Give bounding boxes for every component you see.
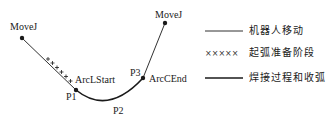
p1-label: P1 [66,92,77,102]
legend-crosses-symbol: ××××× [205,50,239,58]
arcc-end-label: ArcCEnd [149,74,187,84]
legend-arc-prep-label: 起弧准备阶段 [249,48,315,58]
p3-label: P3 [130,68,141,78]
arc-prep-crosses [46,57,73,83]
robot-move-segment-start [22,38,76,90]
robot-move-segment-end [143,23,165,78]
legend-weld-process-label: 焊接过程和收弧 [249,73,326,83]
movej-start-label: MoveJ [10,22,37,32]
legend-robot-move-label: 机器人移动 [249,26,304,36]
p2-label: P2 [113,106,124,116]
movej-start-point [20,36,24,40]
movej-end-point [163,21,167,25]
movej-end-label: MoveJ [155,10,182,20]
p3-point [141,76,145,80]
arcl-start-label: ArcLStart [75,75,115,85]
